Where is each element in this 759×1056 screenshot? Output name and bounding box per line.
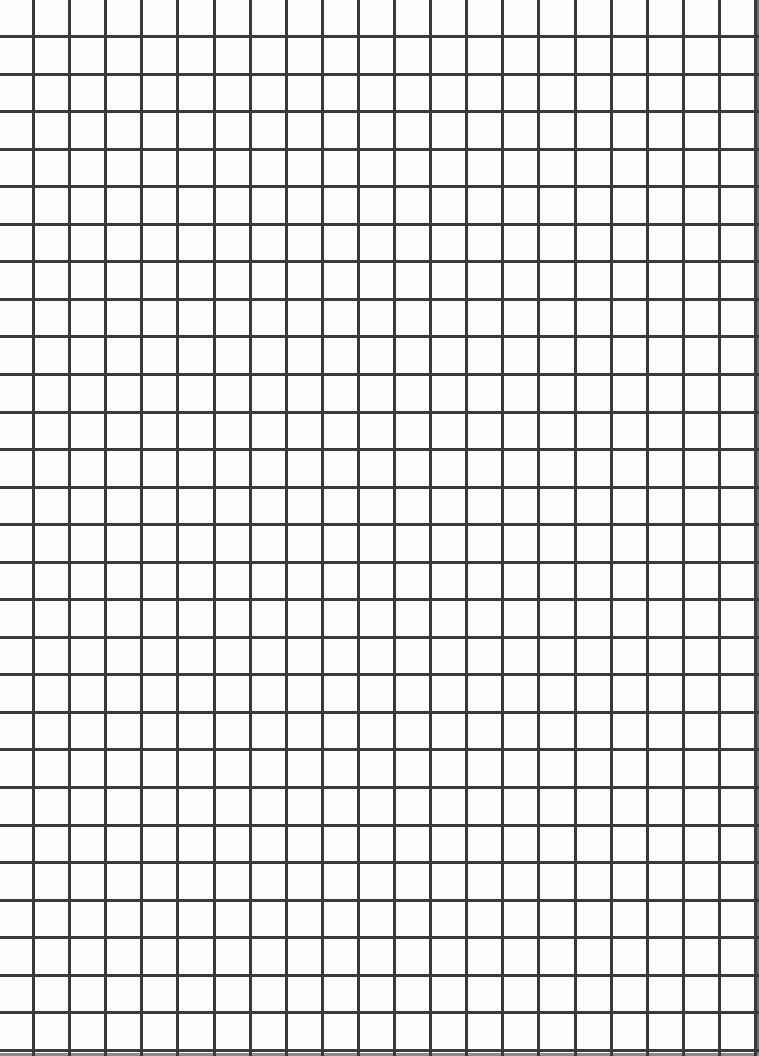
grid-vertical-line [754,0,757,1056]
grid-horizontal-line [0,486,759,489]
grid-horizontal-line [0,748,759,751]
grid-horizontal-line [0,110,759,113]
grid-horizontal-line [0,786,759,789]
grid-horizontal-line [0,861,759,864]
grid-horizontal-line [0,824,759,827]
grid-vertical-line [682,0,685,1056]
grid-vertical-line [213,0,216,1056]
grid-vertical-line [104,0,107,1056]
grid-horizontal-line [0,1011,759,1014]
grid-vertical-line [393,0,396,1056]
grid-horizontal-line [0,523,759,526]
grid-horizontal-line [0,448,759,451]
grid-vertical-line [321,0,324,1056]
grid-horizontal-line [0,373,759,376]
grid-vertical-line [501,0,504,1056]
grid-vertical-line [32,0,35,1056]
grid-vertical-line [610,0,613,1056]
grid-horizontal-line [0,899,759,902]
grid-vertical-line [249,0,252,1056]
grid-vertical-line [465,0,468,1056]
grid-horizontal-line [0,1049,759,1052]
grid-vertical-line [646,0,649,1056]
grid-horizontal-line [0,223,759,226]
grid-horizontal-line [0,711,759,714]
grid-horizontal-line [0,936,759,939]
grid-horizontal-line [0,260,759,263]
grid-horizontal-line [0,185,759,188]
grid-vertical-line [429,0,432,1056]
grid-vertical-line [285,0,288,1056]
grid-horizontal-line [0,673,759,676]
grid-horizontal-line [0,636,759,639]
grid-vertical-line [140,0,143,1056]
grid-vertical-line [718,0,721,1056]
grid-horizontal-line [0,335,759,338]
grid-horizontal-line [0,598,759,601]
grid-vertical-line [574,0,577,1056]
grid-horizontal-line [0,298,759,301]
grid-horizontal-line [0,35,759,38]
grid-horizontal-line [0,148,759,151]
grid-horizontal-line [0,73,759,76]
grid-vertical-line [537,0,540,1056]
grid-vertical-line [357,0,360,1056]
grid-horizontal-line [0,561,759,564]
grid-vertical-line [176,0,179,1056]
grid-horizontal-line [0,974,759,977]
grid-vertical-line [68,0,71,1056]
grid-paper [0,0,759,1056]
grid-horizontal-line [0,411,759,414]
